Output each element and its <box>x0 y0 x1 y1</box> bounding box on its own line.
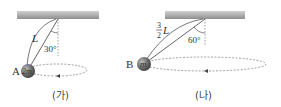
angle-label-b: 60° <box>188 35 201 45</box>
ceiling-a <box>17 11 99 19</box>
length-var-b: L <box>162 24 169 36</box>
length-label-a: L <box>31 32 38 44</box>
figure-a: A 2m L 30° (가) <box>12 11 99 101</box>
angle-arc-a <box>51 31 58 33</box>
orbit-path-b <box>144 57 266 71</box>
ceiling-b <box>165 11 245 19</box>
ball-mass-b: m <box>140 59 147 69</box>
caption-a: (가) <box>52 90 69 101</box>
ball-mass-a: 2m <box>22 67 32 76</box>
ball-label-a: A <box>12 65 20 77</box>
conical-pendulum-diagram: A 2m L 30° (가) B m 3 2 L 60° (나) <box>0 0 281 107</box>
caption-b: (나) <box>195 90 212 101</box>
direction-arrow-a <box>56 74 60 78</box>
orbit-path-a <box>27 64 87 76</box>
length-denominator-b: 2 <box>157 31 161 40</box>
figure-b: B m 3 2 L 60° (나) <box>126 11 266 101</box>
direction-arrow-b <box>204 69 208 73</box>
angle-label-a: 30° <box>44 44 57 54</box>
ball-label-b: B <box>126 58 133 70</box>
angle-arc-b <box>194 27 205 33</box>
length-numerator-b: 3 <box>157 21 161 30</box>
